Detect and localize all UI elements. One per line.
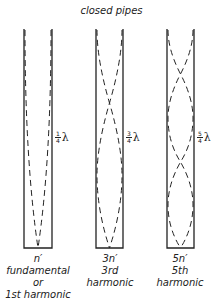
frequency-label: 5n′ (145, 253, 215, 265)
wavelength-label-pipe-3: 54 λ (197, 131, 211, 144)
fraction-denominator: 4 (56, 138, 60, 144)
wave-pipe-1 (25, 30, 51, 248)
wavelength-label-pipe-2: 34 λ (126, 131, 140, 144)
caption-or: or (3, 277, 73, 289)
pipe-1-caption: n′ fundamental or 1st harmonic (3, 253, 73, 301)
pipe-2-caption: 3n′ 3rd harmonic (75, 253, 145, 289)
lambda-symbol: λ (133, 131, 140, 144)
lambda-symbol: λ (62, 131, 69, 144)
harmonic-ordinal: 3rd (75, 265, 145, 277)
pipe-3 (167, 29, 194, 248)
pipe-1 (24, 29, 52, 248)
wave-pipe-2 (97, 30, 122, 248)
wave-pipe-3 (168, 30, 193, 248)
harmonic-alt-name: 1st harmonic (3, 289, 73, 301)
harmonic-name: fundamental (3, 265, 73, 277)
lambda-symbol: λ (204, 131, 211, 144)
harmonic-ordinal: 5th (145, 265, 215, 277)
harmonic-word: harmonic (75, 277, 145, 289)
fraction-denominator: 4 (127, 138, 131, 144)
frequency-label: 3n′ (75, 253, 145, 265)
frequency-label: n′ (3, 253, 73, 265)
harmonic-word: harmonic (145, 277, 215, 289)
wavelength-label-pipe-1: 14 λ (55, 131, 69, 144)
fraction-denominator: 4 (198, 138, 202, 144)
pipe-3-caption: 5n′ 5th harmonic (145, 253, 215, 289)
